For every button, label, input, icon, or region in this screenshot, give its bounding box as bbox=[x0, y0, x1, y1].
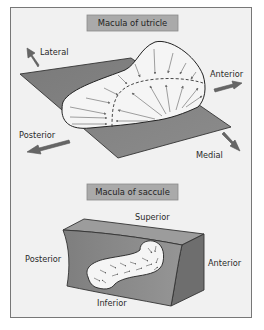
label-saccule-anterior: Anterior bbox=[208, 258, 242, 268]
label-posterior: Posterior bbox=[19, 130, 56, 140]
label-superior: Superior bbox=[135, 212, 170, 222]
label-inferior: Inferior bbox=[97, 298, 127, 308]
label-saccule-posterior: Posterior bbox=[25, 254, 62, 264]
label-lateral: Lateral bbox=[40, 47, 68, 57]
utricle-title: Macula of utricle bbox=[98, 18, 168, 28]
saccule-title: Macula of saccule bbox=[95, 187, 170, 197]
vestibular-maculae-diagram: Macula of utricle bbox=[0, 0, 264, 330]
label-medial: Medial bbox=[196, 150, 223, 160]
label-anterior: Anterior bbox=[210, 69, 244, 79]
